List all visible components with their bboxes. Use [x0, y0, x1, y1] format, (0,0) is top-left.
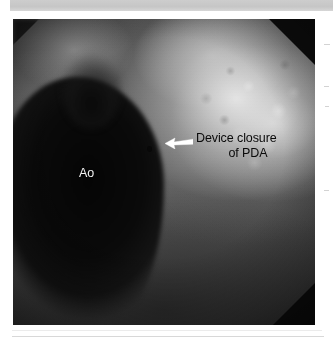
bottom-hairline: [12, 336, 324, 337]
bottom-hairline-upper: [12, 330, 322, 331]
margin-mark-2: [324, 86, 329, 87]
margin-mark-4: [324, 190, 329, 191]
device-closure-annotation-line2: of PDA: [196, 146, 300, 161]
device-pointer-arrow-icon: [165, 136, 193, 149]
aorta-label: Ao: [79, 167, 94, 180]
margin-mark-1: [324, 44, 330, 45]
device-closure-annotation: Device closure of PDA: [196, 131, 300, 160]
top-page-band-fill: [10, 0, 333, 11]
device-closure-annotation-line1: Device closure: [196, 131, 300, 146]
margin-mark-3: [325, 106, 329, 107]
angiogram-image: Device closure of PDA Ao: [13, 19, 315, 325]
image-grain-overlay: [13, 19, 315, 325]
top-page-band: [10, 0, 333, 11]
